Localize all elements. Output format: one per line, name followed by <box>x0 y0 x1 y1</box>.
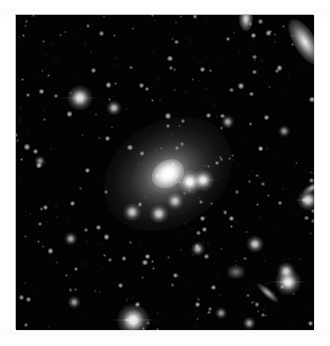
figure-page <box>0 0 330 346</box>
astronomical-image-plate <box>16 15 314 330</box>
sky-background <box>16 15 314 330</box>
figure-caption <box>16 332 314 344</box>
